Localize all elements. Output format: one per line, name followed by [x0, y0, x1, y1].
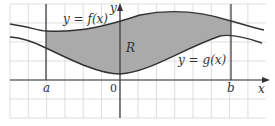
origin-label: 0 — [110, 82, 117, 95]
area-between-curves-diagram: y = f(x) y = g(x) R y x a b 0 — [0, 0, 275, 126]
lower-curve-label: y = g(x) — [177, 53, 227, 67]
upper-curve-label: y = f(x) — [62, 12, 108, 26]
x-axis-label: x — [258, 82, 265, 96]
y-axis-label: y — [109, 1, 117, 15]
region-label: R — [125, 41, 135, 55]
left-bound-label: a — [43, 81, 50, 95]
right-bound-label: b — [227, 81, 235, 95]
